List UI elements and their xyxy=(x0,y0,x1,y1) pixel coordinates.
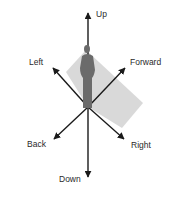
label-back: Back xyxy=(27,140,46,149)
direction-diagram xyxy=(0,0,194,211)
label-left: Left xyxy=(29,58,43,67)
label-down: Down xyxy=(59,175,81,184)
back-arrow xyxy=(54,107,88,139)
label-forward: Forward xyxy=(130,58,161,67)
label-right: Right xyxy=(131,141,151,150)
label-up: Up xyxy=(96,10,107,19)
